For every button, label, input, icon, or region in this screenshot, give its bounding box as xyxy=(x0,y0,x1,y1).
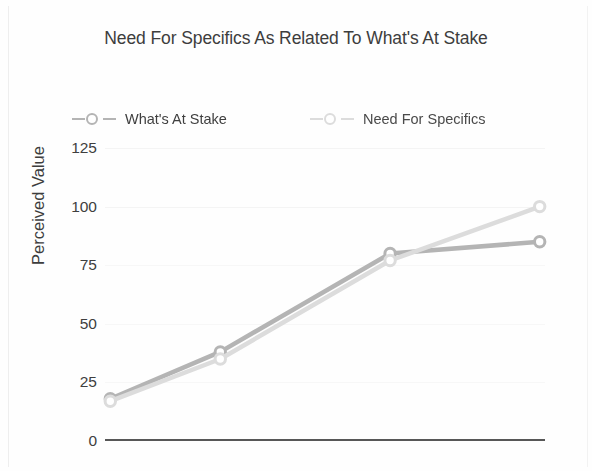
y-axis-tick: 0 xyxy=(41,433,97,449)
data-point-marker[interactable] xyxy=(385,255,395,265)
plot-area xyxy=(105,148,545,441)
data-point-marker[interactable] xyxy=(535,237,545,247)
legend-label-need-for-specifics: Need For Specifics xyxy=(363,111,486,127)
y-axis-tick: 100 xyxy=(41,199,97,215)
data-point-marker[interactable] xyxy=(215,354,225,364)
series-layer xyxy=(105,148,545,441)
data-point-marker[interactable] xyxy=(105,396,115,406)
legend-item-need-for-specifics[interactable]: Need For Specifics xyxy=(310,105,486,133)
x-axis-line xyxy=(105,439,545,441)
chart-legend: What's At Stake Need For Specifics xyxy=(66,105,536,133)
data-point-marker[interactable] xyxy=(535,201,545,211)
legend-label-whats-at-stake: What's At Stake xyxy=(125,111,227,127)
y-axis-tick: 25 xyxy=(41,374,97,390)
chart-title: Need For Specifics As Related To What's … xyxy=(0,28,592,49)
chart-page: Need For Specifics As Related To What's … xyxy=(0,0,592,471)
legend-marker-icon xyxy=(72,112,116,126)
y-axis-tick: 75 xyxy=(41,257,97,273)
y-axis-tick: 50 xyxy=(41,316,97,332)
y-axis-tick: 125 xyxy=(41,140,97,156)
legend-marker-icon xyxy=(310,112,354,126)
legend-item-whats-at-stake[interactable]: What's At Stake xyxy=(72,105,227,133)
